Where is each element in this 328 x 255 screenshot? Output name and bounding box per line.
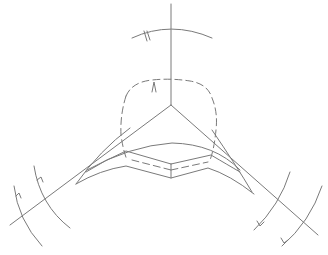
top-inner-arrow-icon <box>152 82 156 92</box>
top-outer-arc <box>132 29 212 38</box>
right-axis <box>171 105 318 235</box>
left-arc-inner <box>34 166 70 228</box>
middle-angled-band-right <box>171 155 240 172</box>
diagram-canvas <box>0 0 328 255</box>
middle-angled-band-left <box>86 151 171 172</box>
diagram-svg <box>0 0 328 255</box>
upper-curved-band <box>87 143 240 170</box>
right-arc-inner <box>254 172 290 230</box>
inner-dashed-left <box>132 160 171 170</box>
right-arc-outer <box>282 186 322 246</box>
right-sweep-curve <box>212 130 252 192</box>
top-outer-arrow-icon <box>144 31 150 41</box>
left-arc-outer-arrow-icon <box>16 193 21 198</box>
right-arc-outer-arrow-icon <box>281 238 288 243</box>
left-arc-outer <box>14 186 42 246</box>
left-dashed-side <box>121 96 127 160</box>
lower-angled-band <box>76 166 254 194</box>
